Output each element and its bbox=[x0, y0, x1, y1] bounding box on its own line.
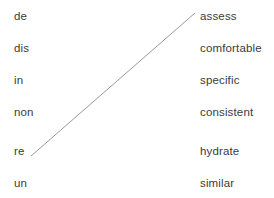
list-item-word-comfortable[interactable]: comfortable bbox=[200, 42, 262, 55]
list-item-word-similar[interactable]: similar bbox=[200, 177, 234, 190]
list-item-word-specific[interactable]: specific bbox=[200, 74, 240, 87]
list-item-prefix-de[interactable]: de bbox=[14, 10, 27, 23]
base-word-column: assess comfortable specific consistent h… bbox=[196, 0, 274, 198]
prefix-column: de dis in non re un bbox=[0, 0, 120, 198]
list-item-word-assess[interactable]: assess bbox=[200, 10, 237, 23]
list-item-prefix-in[interactable]: in bbox=[14, 74, 23, 87]
list-item-word-consistent[interactable]: consistent bbox=[200, 106, 253, 119]
list-item-prefix-re[interactable]: re bbox=[14, 145, 25, 158]
list-item-prefix-non[interactable]: non bbox=[14, 106, 34, 119]
list-item-word-hydrate[interactable]: hydrate bbox=[200, 145, 239, 158]
worksheet-canvas: de dis in non re un assess comfortable s… bbox=[0, 0, 274, 198]
list-item-prefix-un[interactable]: un bbox=[14, 177, 27, 190]
list-item-prefix-dis[interactable]: dis bbox=[14, 42, 29, 55]
